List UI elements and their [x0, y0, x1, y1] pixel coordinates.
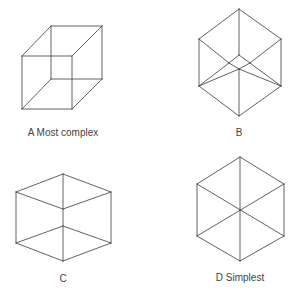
- cube-figure-d: [197, 157, 284, 261]
- figure-a-label: A Most complex: [28, 128, 99, 138]
- cube-edge: [229, 55, 239, 63]
- cube-edge: [16, 243, 63, 261]
- cube-edge: [239, 9, 281, 39]
- cube-edge: [199, 9, 239, 39]
- cube-edge: [199, 86, 239, 116]
- cube-edge: [16, 192, 63, 209]
- cube-edge: [239, 69, 281, 86]
- cube-edge: [16, 226, 63, 243]
- cube-edge: [22, 79, 51, 109]
- cube-edge: [239, 55, 250, 63]
- cube-figure-c: [16, 174, 111, 261]
- cube-edge: [250, 63, 281, 86]
- figure-b-label: B: [236, 128, 243, 138]
- cube-edge: [240, 157, 284, 184]
- cube-edge: [72, 26, 102, 56]
- cube-edge: [239, 63, 250, 69]
- figure-c-label: C: [59, 274, 66, 284]
- cube-edge: [63, 226, 111, 243]
- cube-edge: [197, 236, 240, 261]
- cube-edge: [199, 39, 229, 63]
- cube-edge: [63, 174, 111, 192]
- cube-edge: [22, 26, 51, 56]
- cube-edge: [197, 157, 240, 184]
- cube-edge: [250, 39, 281, 63]
- cube-figure-b: [199, 9, 281, 116]
- cube-edge: [199, 63, 229, 86]
- cube-edge: [229, 63, 239, 69]
- figure-d-label: D Simplest: [216, 273, 264, 283]
- cube-edge: [72, 79, 102, 109]
- cube-edge: [199, 69, 239, 86]
- cube-edge: [63, 243, 111, 261]
- cube-edge: [239, 86, 281, 116]
- cube-edge: [16, 174, 63, 192]
- cube-figure-a: [22, 26, 102, 109]
- cube-edge: [240, 236, 284, 261]
- cube-edge: [63, 192, 111, 209]
- cube-complexity-diagram: [0, 0, 290, 291]
